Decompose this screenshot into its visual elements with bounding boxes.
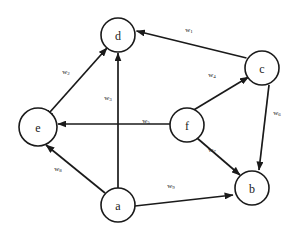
edge-weight-a-d: w3 bbox=[104, 94, 112, 102]
node-a-label: a bbox=[115, 199, 121, 213]
node-f-label: f bbox=[185, 119, 189, 133]
edge-e-d bbox=[50, 48, 107, 112]
edge-f-c bbox=[187, 77, 249, 114]
edge-weight-f-e: w5 bbox=[142, 117, 150, 125]
node-b-label: b bbox=[249, 182, 255, 196]
node-e[interactable]: e bbox=[19, 108, 57, 146]
edge-weight-f-c: w4 bbox=[208, 71, 216, 79]
node-d[interactable]: d bbox=[101, 18, 135, 52]
edge-c-b bbox=[259, 85, 269, 170]
edge-a-b bbox=[135, 195, 233, 206]
edges-layer bbox=[46, 31, 269, 206]
edge-c-d bbox=[137, 31, 247, 58]
node-d-label: d bbox=[115, 29, 121, 43]
edge-weight-a-e: w8 bbox=[54, 165, 62, 173]
node-e-label: e bbox=[35, 121, 40, 135]
edge-weight-a-b: w9 bbox=[167, 182, 175, 190]
node-f[interactable]: f bbox=[170, 108, 204, 142]
edge-labels-layer: w1 w2 w3 w4 w5 w6 w7 w8 w9 bbox=[54, 26, 281, 190]
edge-weight-c-d: w1 bbox=[185, 26, 193, 34]
node-c[interactable]: c bbox=[245, 51, 279, 85]
edge-weight-e-d: w2 bbox=[62, 68, 70, 76]
edge-weight-c-b: w6 bbox=[273, 109, 281, 117]
node-c-label: c bbox=[259, 62, 264, 76]
node-a[interactable]: a bbox=[101, 188, 135, 222]
node-b[interactable]: b bbox=[235, 171, 269, 205]
graph-diagram: w1 w2 w3 w4 w5 w6 w7 w8 w9 d c e f a bbox=[0, 0, 303, 233]
edge-weight-f-b: w7 bbox=[208, 146, 216, 154]
edge-f-b bbox=[197, 138, 240, 175]
